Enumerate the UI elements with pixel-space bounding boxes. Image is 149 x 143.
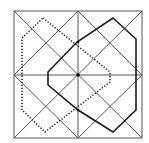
geometric-diagram: [0, 0, 149, 143]
top-crossing-point: [77, 41, 80, 44]
center-point: [76, 73, 80, 77]
bottom-crossing-point: [77, 109, 80, 112]
